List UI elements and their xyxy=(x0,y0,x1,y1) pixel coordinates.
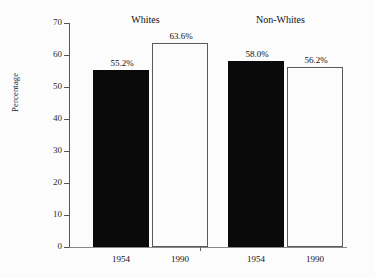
y-axis-tick-label-wrap: 40 xyxy=(12,114,62,124)
y-axis-tick-label: 30 xyxy=(16,146,62,155)
y-axis-tick xyxy=(64,151,69,152)
x-axis-tick-label: 1990 xyxy=(287,254,343,264)
y-axis-tick-label: 10 xyxy=(16,210,62,219)
bar-value-label: 55.2% xyxy=(90,58,154,68)
y-axis-tick-label-wrap: 60 xyxy=(12,50,62,60)
y-axis-tick xyxy=(64,55,69,56)
y-axis-tick xyxy=(64,183,69,184)
bar-whites-1954[interactable] xyxy=(93,70,149,247)
y-axis-tick-label-wrap: 0 xyxy=(12,242,62,252)
x-axis-tick-label: 1990 xyxy=(152,254,208,264)
y-axis-tick-label-wrap: 10 xyxy=(12,210,62,220)
y-axis-tick-label: 50 xyxy=(16,82,62,91)
y-axis-tick xyxy=(64,119,69,120)
bar-value-label: 63.6% xyxy=(149,31,213,41)
bar-non-whites-1954[interactable] xyxy=(228,61,284,247)
y-axis-tick xyxy=(64,87,69,88)
x-axis-tick-label: 1954 xyxy=(228,254,284,264)
y-axis-title: Percentage xyxy=(10,73,20,112)
y-axis-tick-label-wrap: 70 xyxy=(12,18,62,28)
y-axis-tick-label: 60 xyxy=(16,50,62,59)
y-axis-tick-label: 0 xyxy=(16,242,62,251)
y-axis-tick-label-wrap: 30 xyxy=(12,146,62,156)
group-title-whites: Whites xyxy=(93,14,198,25)
bar-whites-1990[interactable] xyxy=(152,43,208,247)
bar-value-label: 56.2% xyxy=(284,55,348,65)
bar-non-whites-1990[interactable] xyxy=(287,67,343,247)
y-axis-tick-label: 40 xyxy=(16,114,62,123)
y-axis-tick-label: 20 xyxy=(16,178,62,187)
y-axis-tick-label-wrap: 50 xyxy=(12,82,62,92)
y-axis-tick-label-wrap: 20 xyxy=(12,178,62,188)
bar-chart: Percentage 706050403020100 Whites Non-Wh… xyxy=(0,0,375,278)
y-axis-tick xyxy=(64,23,69,24)
group-title-non-whites: Non-Whites xyxy=(228,14,333,25)
x-axis-tick-label: 1954 xyxy=(93,254,149,264)
y-axis-tick xyxy=(64,215,69,216)
bar-value-label: 58.0% xyxy=(225,49,289,59)
x-axis-line xyxy=(69,247,347,248)
y-axis-line xyxy=(69,23,70,248)
y-axis-tick-label: 70 xyxy=(16,18,62,27)
